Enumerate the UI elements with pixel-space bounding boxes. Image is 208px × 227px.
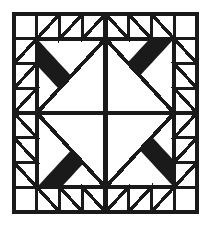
top-left-quadrant: [14, 14, 106, 113]
bottom-left-quadrant: [14, 113, 106, 212]
top-right-quadrant: [106, 14, 198, 113]
quilt-block-diagram: [0, 0, 208, 227]
bottom-right-quadrant: [106, 113, 198, 212]
quilt-block: [14, 14, 197, 212]
quilt-figure-root: [0, 0, 208, 227]
